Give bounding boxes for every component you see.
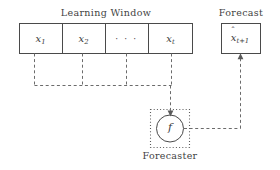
cell-x1-label: x1 — [19, 32, 62, 46]
diagram-vector-layer — [0, 0, 280, 170]
cell-xt-label: xt — [149, 32, 192, 46]
cell-xt-subscript: t — [172, 38, 175, 46]
cell-x2-subscript: 2 — [84, 38, 88, 46]
forecast-input-arrowhead — [238, 53, 244, 59]
hat-accent-icon: ˆ — [231, 27, 236, 36]
learning-window-title: Learning Window — [0, 8, 212, 18]
forecasting-diagram: Learning Window Forecast Forecaster x1 x… — [0, 0, 280, 170]
cell-x1-subscript: 1 — [41, 38, 45, 46]
forecaster-caption: Forecaster — [134, 151, 206, 161]
forecast-value-label: ˆxt+1 — [198, 31, 280, 48]
forecast-value-hat-group: ˆx — [231, 31, 237, 45]
forecast-value-subscript: t+1 — [236, 37, 249, 45]
cell-ellipsis-label: · · · — [105, 32, 148, 46]
forecaster-function-symbol: f — [150, 121, 190, 135]
forecast-title: Forecast — [208, 8, 274, 18]
cell-x2-label: x2 — [62, 32, 105, 46]
